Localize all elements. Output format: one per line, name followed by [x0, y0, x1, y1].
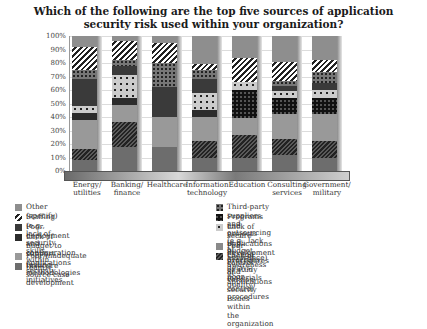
aware-swatch-icon [216, 253, 223, 260]
bar-segment-insecure [232, 158, 257, 172]
bar-segment-deploy [152, 87, 177, 117]
bar-segment-third [72, 70, 97, 79]
bar-segment-other [72, 36, 97, 47]
bar-government-military [312, 36, 337, 171]
y-tick-label: 10% [38, 154, 66, 162]
bar-segment-insecure [272, 155, 297, 171]
bar-segment-insecure [152, 147, 177, 171]
bar-segment-staff [272, 62, 297, 81]
bar-segment-lacksecure [232, 82, 257, 90]
bar-education [232, 36, 257, 171]
bar-segment-testing [112, 105, 137, 123]
bar-segment-testing [72, 120, 97, 150]
bar-segment-lacksecure [192, 93, 217, 111]
lacksecure-swatch-icon [216, 224, 223, 231]
bar-segment-other [192, 36, 217, 64]
bar-segment-third [152, 63, 177, 87]
plot-area: 100%90%80%70%60%50%40%30%20%10%0%Energy/… [0, 0, 427, 200]
y-tick-label: 40% [38, 113, 66, 121]
bar-segment-deploy [312, 83, 337, 90]
y-axis [69, 36, 70, 172]
insecure-swatch-icon [15, 263, 22, 270]
legend-label: Insecure source case development [26, 262, 74, 288]
bar-segment-insecure [112, 147, 137, 171]
bar-segment-budget [192, 110, 217, 117]
bar-side-3d [137, 36, 142, 171]
bar-side-3d [177, 36, 182, 171]
bar-segment-other [232, 36, 257, 58]
bar-segment-staff [232, 58, 257, 82]
bar-segment-other [272, 36, 297, 62]
bar-side-3d [337, 36, 342, 171]
bar-segment-staff [152, 43, 177, 63]
bar-side-3d [97, 36, 102, 171]
bar-segment-deploy [72, 79, 97, 106]
bar-segment-programs [232, 90, 257, 118]
bar-banking-finance [112, 36, 137, 171]
bar-consulting-services [272, 36, 297, 171]
x-tick-label: Government/military [302, 181, 352, 197]
testing-swatch-icon [15, 253, 22, 260]
bar-segment-programs [272, 98, 297, 114]
third-swatch-icon [216, 204, 223, 211]
bar-segment-insecure [72, 160, 97, 171]
bar-segment-aware [72, 149, 97, 160]
legend-label: Lack of awareness of applications securi… [227, 252, 273, 329]
bar-side-3d [297, 36, 302, 171]
bar-side-3d [257, 36, 262, 171]
bar-segment-aware [112, 122, 137, 146]
bar-segment-lacksecure [312, 90, 337, 98]
bar-side-3d [217, 36, 222, 171]
bar-segment-testing [232, 118, 257, 134]
bar-segment-testing [192, 117, 217, 141]
bar-energy-utilities [72, 36, 97, 171]
y-tick-label: 30% [38, 127, 66, 135]
legend-item-aware: Lack of awareness of applications securi… [216, 252, 273, 329]
bar-segment-aware [192, 141, 217, 157]
y-tick-label: 0% [38, 167, 66, 175]
bar-segment-deploy [112, 66, 137, 75]
y-tick-label: 90% [38, 46, 66, 54]
y-tick-label: 70% [38, 73, 66, 81]
bar-segment-programs [312, 98, 337, 114]
y-tick-label: 100% [38, 32, 66, 40]
bar-segment-lacksecure [272, 91, 297, 98]
bar-segment-aware [232, 135, 257, 158]
bar-segment-aware [312, 141, 337, 157]
bar-segment-testing [152, 117, 177, 147]
y-tick-label: 20% [38, 140, 66, 148]
y-tick-label: 80% [38, 59, 66, 67]
bar-information-technology [192, 36, 217, 171]
bar-segment-third [312, 72, 337, 83]
bar-segment-insecure [192, 158, 217, 172]
deploy-swatch-icon [15, 224, 22, 231]
budget-swatch-icon [15, 234, 22, 241]
bar-segment-staff [72, 47, 97, 70]
bar-segment-other [312, 36, 337, 60]
bar-segment-staff [312, 60, 337, 72]
legend-item-insecure: Insecure source case development [15, 262, 74, 288]
y-tick-label: 50% [38, 100, 66, 108]
y-tick-label: 60% [38, 86, 66, 94]
bar-segment-insecure [312, 158, 337, 172]
bar-segment-testing [272, 114, 297, 138]
bar-segment-aware [272, 139, 297, 155]
staff-swatch-icon [15, 214, 22, 221]
bar-segment-third [192, 70, 217, 79]
bar-segment-budget [72, 113, 97, 120]
other-swatch-icon [15, 204, 22, 211]
bar-segment-deploy [192, 79, 217, 93]
bar-segment-lacksecure [112, 75, 137, 98]
bar-segment-budget [112, 98, 137, 105]
bar-segment-lacksecure [72, 106, 97, 113]
bar-segment-other [152, 36, 177, 43]
bar-segment-testing [312, 114, 337, 141]
change-swatch-icon [216, 243, 223, 250]
bar-healthcare [152, 36, 177, 171]
programs-swatch-icon [216, 214, 223, 221]
bar-segment-staff [112, 41, 137, 60]
